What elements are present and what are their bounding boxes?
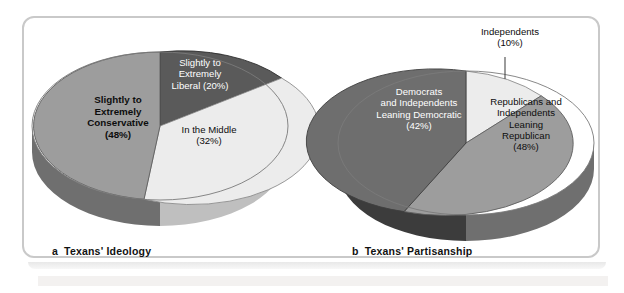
pie-chart-ideology <box>32 51 319 226</box>
panel-caption-text-a: Texans' Ideology <box>64 245 151 257</box>
panel-caption-text-b: Texans' Partisanship <box>365 245 473 257</box>
pie-chart-partisanship <box>306 57 594 241</box>
panel-letter-b: b <box>352 245 359 257</box>
figure-root: Slightly to Extremely Liberal (20%) In t… <box>0 0 624 293</box>
panel-caption-b: bTexans' Partisanship <box>352 245 472 257</box>
panel-letter-a: a <box>52 245 58 257</box>
panel-caption-a: aTexans' Ideology <box>52 245 151 257</box>
